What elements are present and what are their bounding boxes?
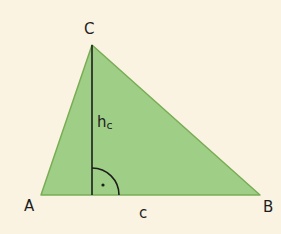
right-angle-dot	[101, 183, 104, 186]
triangle-diagram: C A B hc c	[0, 0, 281, 234]
vertex-label-a: A	[24, 197, 35, 215]
vertex-label-c: C	[84, 20, 94, 38]
altitude-label-main: h	[97, 113, 107, 131]
side-label-c: c	[139, 204, 147, 222]
diagram-svg: C A B hc c	[0, 0, 281, 234]
vertex-label-b: B	[263, 198, 273, 216]
altitude-label-sub: c	[107, 119, 113, 132]
